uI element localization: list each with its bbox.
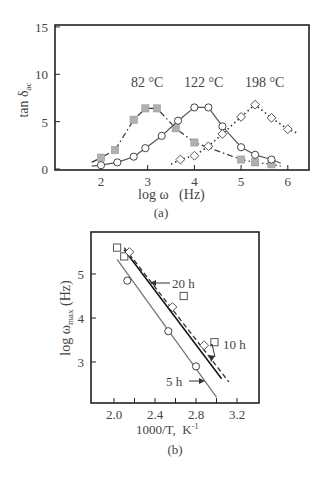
circle-marker [142, 145, 149, 152]
circle-marker [165, 328, 172, 335]
y-tick-label: 5 [42, 115, 49, 130]
diamond-marker [283, 125, 292, 134]
x-tick-label: 5 [238, 174, 245, 189]
circle-marker [191, 104, 198, 111]
panel-a-annotation-198: 198 °C [245, 75, 284, 90]
circle-marker [124, 277, 131, 284]
y-tick-label: 4 [78, 311, 85, 326]
svg-text:5 h: 5 h [166, 374, 183, 389]
circle-marker [174, 117, 181, 124]
fit-line [124, 248, 229, 382]
square-marker [142, 105, 149, 112]
panel-b-x-ticks: 2.02.42.83.2 [106, 398, 245, 422]
circle-marker [97, 162, 104, 169]
circle-marker [130, 153, 137, 160]
circle-marker [114, 159, 121, 166]
diamond-marker [176, 155, 185, 164]
panel-a-x-ticks: 23456 [98, 165, 292, 189]
circle-marker [252, 151, 259, 158]
diamond-marker [200, 341, 209, 350]
square-marker [130, 116, 137, 123]
x-tick-label: 2 [98, 174, 105, 189]
diamond-marker [267, 113, 276, 122]
fit-line [124, 250, 221, 379]
diamond-marker [218, 130, 227, 139]
y-tick-label: 3 [78, 355, 85, 370]
circle-marker [205, 104, 212, 111]
figure: 051015 23456 82 °C 122 °C 198 °C log ω (… [0, 0, 322, 480]
panel-b-chart: 345 2.02.42.83.2 20 h 10 h 5 h 1000/T, K… [58, 232, 259, 457]
panel-a-x-axis-label: log ω (Hz) [138, 187, 205, 203]
series-198C [171, 100, 297, 164]
diamond-marker [190, 151, 199, 160]
x-tick-label: 3.2 [229, 407, 245, 422]
circle-marker [158, 132, 165, 139]
panel-a-y-ticks: 051015 [35, 20, 60, 177]
y-tick-label: 15 [35, 20, 48, 35]
svg-text:20 h: 20 h [172, 276, 195, 291]
panel-b-x-axis-label: 1000/T, K-1 [136, 422, 198, 437]
x-tick-label: 2.4 [147, 407, 164, 422]
y-tick-label: 0 [42, 162, 49, 177]
svg-text:10 h: 10 h [223, 337, 246, 352]
y-tick-label: 10 [35, 67, 48, 82]
panel-a-annotation-122: 122 °C [184, 75, 223, 90]
square-marker [252, 159, 259, 166]
square-marker [111, 146, 118, 153]
square-marker [191, 139, 198, 146]
panel-b-y-axis-label: log ωmax (Hz) [58, 280, 75, 356]
panel-a-series [92, 100, 297, 169]
x-tick-label: 2.0 [106, 407, 122, 422]
x-tick-label: 6 [285, 174, 292, 189]
square-marker [97, 154, 104, 161]
panel-a-y-axis-label: tan δac [16, 82, 33, 117]
panel-a-annotation-82: 82 °C [131, 75, 163, 90]
y-tick-label: 5 [78, 267, 85, 282]
annotation-5h: 5 h [166, 374, 205, 389]
square-marker [238, 156, 245, 163]
panel-a-frame [55, 25, 309, 170]
panel-b-label: (b) [167, 442, 182, 457]
square-marker [180, 292, 187, 299]
circle-marker [238, 144, 245, 151]
panel-a-chart: 051015 23456 82 °C 122 °C 198 °C log ω (… [16, 20, 309, 220]
circle-marker [268, 156, 275, 163]
panel-b-y-ticks: 345 [78, 267, 97, 370]
panel-a-label: (a) [154, 205, 168, 220]
square-marker [153, 105, 160, 112]
x-tick-label: 2.8 [188, 407, 204, 422]
square-marker [113, 244, 120, 251]
circle-marker [192, 363, 199, 370]
